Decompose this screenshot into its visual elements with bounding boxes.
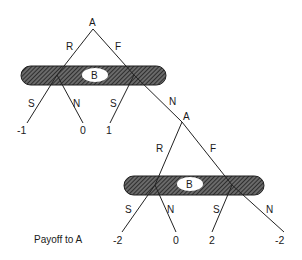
tree-edges (27, 29, 284, 232)
payoff-6: 2 (209, 234, 215, 246)
edge-label-b2-right-n: N (266, 204, 273, 215)
information-set-b-bottom (124, 176, 264, 195)
game-tree-diagram: A B A B R F S N S N R F S N S N -1 0 1 -… (0, 0, 302, 260)
payoff-caption: Payoff to A (34, 234, 83, 245)
edge-label-root-r: R (66, 41, 73, 52)
edge-label-a2-f: F (210, 143, 216, 154)
payoff-2: 0 (80, 124, 86, 136)
edge-label-b2-left-s: S (125, 204, 132, 215)
edge-label-b1-left-s: S (28, 98, 35, 109)
node-label-root-a: A (89, 17, 96, 28)
edge-label-b2-right-s: S (213, 204, 220, 215)
payoff-1: -1 (17, 124, 26, 136)
payoff-7: -2 (275, 234, 284, 246)
payoff-4: -2 (113, 234, 122, 246)
edge-label-b2-left-n: N (167, 204, 174, 215)
node-label-b-top: B (91, 70, 98, 81)
payoff-3: 1 (106, 124, 112, 136)
node-label-second-a: A (183, 111, 190, 122)
edge-label-root-f: F (115, 41, 121, 52)
edge-label-a2-r: R (156, 143, 163, 154)
node-label-b-bottom: B (186, 179, 193, 190)
edge-label-b1-right-n: N (169, 96, 176, 107)
payoff-5: 0 (173, 234, 179, 246)
edge-label-b1-left-n: N (73, 98, 80, 109)
edge-label-b1-right-s: S (110, 98, 117, 109)
